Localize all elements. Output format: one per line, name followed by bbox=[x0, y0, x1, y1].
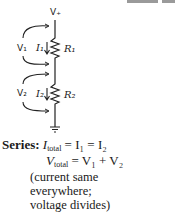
voltage-label-v1: V₁ bbox=[17, 43, 27, 53]
series-circuit-diagram: V₊ R₁ R₂ I₁ I₂ V₁ V₂ bbox=[0, 0, 175, 140]
current-label-i2: I₂ bbox=[35, 88, 44, 99]
series-note: (current same everywhere; voltage divide… bbox=[30, 170, 110, 212]
wire-with-resistors bbox=[51, 20, 59, 127]
current-arrow-icon bbox=[45, 88, 50, 100]
voltage-label-v2: V₂ bbox=[17, 88, 27, 98]
ground-icon bbox=[50, 127, 60, 132]
resistor-label-r1: R₁ bbox=[63, 43, 76, 54]
series-heading: Series: bbox=[2, 137, 40, 152]
resistor-label-r2: R₂ bbox=[63, 89, 76, 100]
current-arrow-icon bbox=[45, 42, 50, 54]
current-label-i1: I₁ bbox=[35, 42, 44, 53]
supply-label: V₊ bbox=[50, 7, 61, 17]
